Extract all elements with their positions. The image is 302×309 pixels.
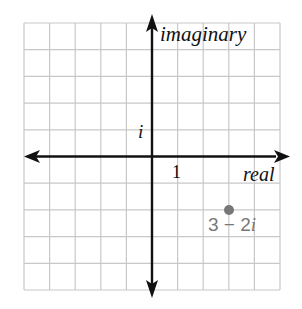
point-operator: − — [224, 214, 235, 235]
point-imag-part: 2 — [240, 214, 251, 235]
y-unit-tick-label: i — [138, 122, 143, 141]
point-imag-unit: i — [251, 214, 256, 235]
x-unit-tick-label: 1 — [172, 163, 181, 181]
complex-plane — [0, 0, 302, 309]
real-axis-label: real — [243, 164, 274, 184]
imaginary-axis-label: imaginary — [160, 24, 246, 45]
point-real-part: 3 — [208, 214, 219, 235]
axes — [24, 14, 290, 298]
point-label: 3 − 2i — [208, 215, 256, 234]
arrow-right-icon — [274, 150, 290, 163]
